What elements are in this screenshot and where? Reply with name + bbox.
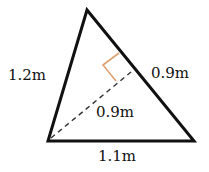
triangle-diagram: 1.2m 0.9m 0.9m 1.1m bbox=[0, 0, 209, 172]
base-label: 1.1m bbox=[98, 147, 136, 165]
right-angle-marker bbox=[103, 53, 119, 81]
diagram-svg: 1.2m 0.9m 0.9m 1.1m bbox=[0, 0, 209, 172]
left-side-label: 1.2m bbox=[8, 66, 46, 84]
altitude-label: 0.9m bbox=[96, 103, 134, 121]
right-side-label: 0.9m bbox=[151, 64, 189, 82]
